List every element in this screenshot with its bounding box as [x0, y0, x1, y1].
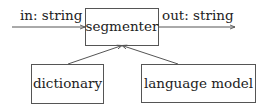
segmenter-label: segmenter [86, 18, 159, 34]
language-model-to-segmenter-arrow [122, 46, 178, 65]
node-dictionary: dictionary [32, 65, 104, 104]
dictionary-label: dictionary [33, 75, 103, 91]
node-language-model: language model [142, 65, 256, 103]
dictionary-to-segmenter-arrow [68, 46, 122, 65]
input-edge-label: in: string [20, 7, 83, 23]
language-model-label: language model [144, 75, 253, 91]
output-edge-label: out: string [162, 7, 234, 23]
node-segmenter: segmenter [86, 9, 159, 46]
diagram-canvas: in: string out: string segmenter diction… [0, 0, 265, 109]
